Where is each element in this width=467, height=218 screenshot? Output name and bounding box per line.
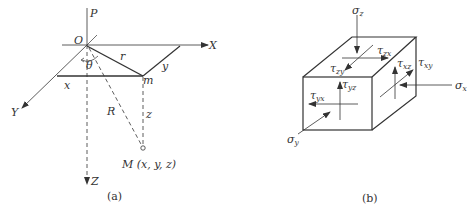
label-tau-yz: τyz xyxy=(342,78,356,92)
diagram-canvas: P O X Y Z r θ x y m R z M (x, y, z) (a) xyxy=(0,0,467,218)
figure: P O X Y Z r θ x y m R z M (x, y, z) (a) xyxy=(0,0,467,218)
panel-b: σz σx σy τzx τzy τxz τxy τyz τyx (b) xyxy=(287,4,467,205)
cube-front-face xyxy=(303,77,372,130)
label-O: O xyxy=(74,34,83,47)
label-tau-yx: τyx xyxy=(310,89,325,103)
tau-xy-arrow xyxy=(380,70,413,97)
label-z: z xyxy=(145,108,152,121)
origin-tick xyxy=(87,35,97,45)
label-x: x xyxy=(64,79,71,92)
label-tau-zy: τzy xyxy=(330,62,345,76)
label-r: r xyxy=(120,50,126,63)
label-tau-xz: τxz xyxy=(397,57,411,71)
z-axis-arrowhead xyxy=(84,177,90,185)
label-sigma-y: σy xyxy=(287,133,300,147)
label-m: m xyxy=(143,74,153,87)
label-R: R xyxy=(106,105,115,118)
label-tau-zx: τzx xyxy=(377,44,392,58)
label-P: P xyxy=(89,7,98,20)
label-Z: Z xyxy=(90,175,99,188)
caption-a: (a) xyxy=(107,190,122,203)
label-tau-xy: τxy xyxy=(418,56,433,70)
r-line xyxy=(87,46,143,76)
label-y: y xyxy=(161,60,169,73)
label-theta: θ xyxy=(86,59,93,72)
label-M: M (x, y, z) xyxy=(121,158,176,171)
caption-b: (b) xyxy=(362,192,378,205)
label-Y: Y xyxy=(11,106,20,119)
label-sigma-z: σz xyxy=(352,4,364,18)
R-line xyxy=(89,48,142,146)
point-M xyxy=(141,146,145,150)
tau-zy-arrow xyxy=(345,45,373,70)
panel-a: P O X Y Z r θ x y m R z M (x, y, z) (a) xyxy=(11,7,218,203)
label-sigma-x: σx xyxy=(455,79,467,93)
label-X: X xyxy=(208,39,218,52)
